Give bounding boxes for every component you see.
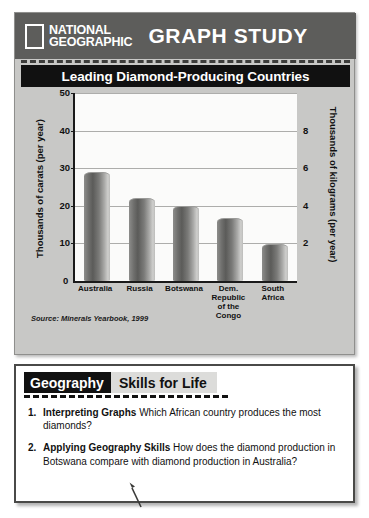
question-text-2: Applying Geography Skills How does the d… [43, 441, 344, 467]
header-dashed-divider [21, 60, 350, 63]
question-lead-2: Applying Geography Skills [43, 442, 170, 453]
logo-line-geographic: GEOGRAPHIC [49, 36, 132, 49]
x-label-south-africa: South Africa [251, 285, 295, 321]
plot-area: 50 40 30 20 10 [73, 93, 297, 283]
x-label-botswana: Botswana [162, 285, 206, 321]
chart-area: Thousands of carats (per year) Thousands… [21, 89, 350, 334]
chart-poster: NATIONAL GEOGRAPHIC GRAPH STUDY Leading … [14, 12, 355, 355]
bar-slot-drc [208, 93, 252, 281]
question-item-1: 1. Interpreting Graphs Which African cou… [28, 406, 344, 432]
skills-question-box: Geography Skills for Life 1. Interpretin… [14, 364, 355, 503]
x-label-dem-republic-of-the-congo: Dem. Republic of the Congo [206, 285, 250, 321]
bar-dem-republic-of-the-congo [217, 218, 243, 281]
y-axis-title-right: Thousands of kilograms (per year) [328, 105, 339, 265]
banner-geography: Geography [24, 372, 111, 393]
banner-skills-for-life: Skills for Life [111, 372, 217, 393]
question-lead-1: Interpreting Graphs [43, 407, 136, 418]
bar-russia [129, 198, 155, 281]
bar-australia [84, 172, 110, 281]
national-geographic-logo: NATIONAL GEOGRAPHIC [25, 24, 132, 49]
header-band: NATIONAL GEOGRAPHIC GRAPH STUDY [15, 13, 356, 59]
skills-banner: Geography Skills for Life [24, 372, 217, 393]
chart-title: Leading Diamond-Producing Countries [21, 65, 350, 87]
y-tick-label-0: 0 [63, 275, 68, 286]
y2-tick-label-6: 6 [303, 163, 308, 173]
logo-wordmark: NATIONAL GEOGRAPHIC [49, 24, 132, 49]
bar-botswana [173, 206, 199, 281]
section-title: GRAPH STUDY [148, 24, 307, 48]
y2-tick-label-2: 2 [303, 239, 308, 249]
y-tick-label-20: 20 [59, 201, 70, 211]
question-item-2: 2. Applying Geography Skills How does th… [28, 441, 344, 467]
y2-tick-label-4: 4 [303, 201, 308, 211]
question-number-1: 1. [28, 406, 43, 432]
y-tick-label-50: 50 [59, 88, 70, 98]
question-number-2: 2. [28, 441, 43, 467]
bar-series [75, 93, 297, 281]
y-tick-label-10: 10 [59, 239, 70, 249]
y-tick-label-30: 30 [59, 163, 70, 173]
bar-south-africa [262, 244, 288, 281]
question-text-1: Interpreting Graphs Which African countr… [43, 406, 344, 432]
yellow-rectangle-icon [25, 24, 44, 49]
bar-slot-australia [75, 93, 119, 281]
y-tick-label-40: 40 [59, 126, 70, 136]
y2-tick-label-8: 8 [303, 126, 308, 136]
y-axis-title-left: Thousands of carats (per year) [34, 109, 45, 269]
bar-slot-south-africa [253, 93, 297, 281]
graph-study-page: NATIONAL GEOGRAPHIC GRAPH STUDY Leading … [0, 0, 369, 518]
banner-dashed-divider [24, 395, 228, 398]
bar-slot-botswana [164, 93, 208, 281]
bar-slot-russia [119, 93, 163, 281]
question-list: 1. Interpreting Graphs Which African cou… [28, 406, 344, 477]
chart-source: Source: Minerals Yearbook, 1999 [31, 314, 148, 323]
